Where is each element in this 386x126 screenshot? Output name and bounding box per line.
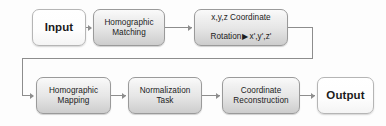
edge-mapping-to-normalization-arrowhead <box>122 93 126 99</box>
node-homographic-mapping-label: Homographic Mapping <box>49 86 98 105</box>
rotation-line-1: x,y,z Coordinate <box>211 13 272 22</box>
edge-normalization-to-reconstruction-arrowhead <box>216 93 220 99</box>
node-homographic-matching: Homographic Matching <box>93 9 165 46</box>
node-homographic-mapping: Homographic Mapping <box>36 77 111 114</box>
edge-reconstruction-to-output-arrowhead <box>311 93 315 99</box>
edge-wrap-segment-down <box>312 27 313 59</box>
edge-wrap-segment-down-left <box>22 58 23 95</box>
rotation-label-suffix: x',y',z' <box>250 32 272 41</box>
edge-matching-to-rotation-arrowhead <box>188 25 192 31</box>
node-output: Output <box>317 77 374 114</box>
node-homographic-matching-label: Homographic Matching <box>104 18 153 37</box>
node-coordinate-rotation-text: x,y,z Coordinate Rotation▶x',y',z' <box>211 4 272 51</box>
node-coordinate-reconstruction-label: Coordinate Reconstruction <box>233 86 288 105</box>
node-normalization-task-label: Normalization Task <box>140 86 191 105</box>
node-output-label: Output <box>326 89 364 102</box>
node-input: Input <box>32 9 86 46</box>
node-coordinate-rotation: x,y,z Coordinate Rotation▶x',y',z' <box>194 9 288 46</box>
edge-wrap-segment-right <box>288 27 313 28</box>
flowchart-diagram: Input Homographic Matching x,y,z Coordin… <box>0 0 386 126</box>
rotation-line-2: Rotation▶x',y',z' <box>211 32 272 41</box>
play-triangle-icon: ▶ <box>241 32 249 41</box>
rotation-label-prefix: Rotation <box>211 32 242 41</box>
node-normalization-task: Normalization Task <box>128 77 202 114</box>
edge-input-to-matching-arrowhead <box>88 25 92 31</box>
node-coordinate-reconstruction: Coordinate Reconstruction <box>222 77 300 114</box>
edge-wrap-segment-left <box>22 58 313 59</box>
edge-wrap-arrowhead <box>30 93 34 99</box>
node-input-label: Input <box>45 21 74 34</box>
